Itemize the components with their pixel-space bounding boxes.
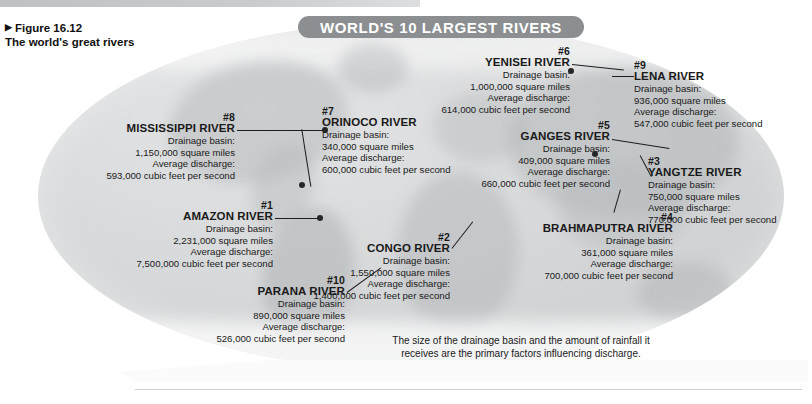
callout-mississippi-river: #8 MISSISSIPPI RIVER Drainage basin: 1,1… [70,112,235,181]
average-discharge-label: Average discharge: [634,106,804,117]
drainage-basin-label: Drainage basin: [634,83,804,94]
callout-yenisei-river: #6 YENISEI RIVER Drainage basin: 1,000,0… [420,46,570,115]
drainage-basin-value: 409,000 square miles [460,155,610,166]
drainage-basin-value: 936,000 square miles [634,95,804,106]
leader-line-mississippi [237,130,325,131]
map-marker-yenisei [568,68,574,74]
average-discharge-value: 660,000 cubic feet per second [460,178,610,189]
average-discharge-label: Average discharge: [108,246,273,257]
callout-amazon-river: #1 AMAZON RIVER Drainage basin: 2,231,00… [108,200,273,269]
average-discharge-label: Average discharge: [460,166,610,177]
river-name: GANGES RIVER [460,131,610,142]
average-discharge-value: 547,000 cubic feet per second [634,118,804,129]
average-discharge-value: 700,000 cubic feet per second [508,270,673,281]
drainage-basin-label: Drainage basin: [70,135,235,146]
river-name: LENA RIVER [634,71,804,82]
drainage-basin-value: 1,150,000 square miles [70,147,235,158]
map-marker-amazon [317,215,323,221]
callout-ganges-river: #5 GANGES RIVER Drainage basin: 409,000 … [460,120,610,189]
average-discharge-value: 1,400,000 cubic feet per second [300,290,450,301]
greenland-landmass [338,44,408,92]
drainage-basin-label: Drainage basin: [420,69,570,80]
drainage-basin-value: 1,000,000 square miles [420,81,570,92]
average-discharge-label: Average discharge: [420,92,570,103]
drainage-basin-value: 890,000 square miles [190,310,345,321]
average-discharge-label: Average discharge: [70,158,235,169]
map-title-banner: WORLD'S 10 LARGEST RIVERS [298,16,584,38]
river-name: YENISEI RIVER [420,57,570,68]
callout-lena-river: #9 LENA RIVER Drainage basin: 936,000 sq… [634,60,804,129]
drainage-basin-value: 750,000 square miles [648,191,812,202]
drainage-basin-label: Drainage basin: [108,223,273,234]
callout-brahmaputra-river: #4 BRAHMAPUTRA RIVER Drainage basin: 361… [508,212,673,281]
map-marker-ganges [592,151,598,157]
average-discharge-label: Average discharge: [508,258,673,269]
river-name: MISSISSIPPI RIVER [70,123,235,134]
average-discharge-value: 593,000 cubic feet per second [70,170,235,181]
average-discharge-label: Average discharge: [300,278,450,289]
drainage-basin-value: 1,550,000 square miles [300,267,450,278]
river-name: BRAHMAPUTRA RIVER [508,223,673,234]
average-discharge-value: 614,000 cubic feet per second [420,104,570,115]
map-explanatory-note: The size of the drainage basin and the a… [390,334,652,360]
drainage-basin-label: Drainage basin: [300,255,450,266]
map-base-line [135,389,802,390]
leader-line-lena [612,76,634,77]
river-name: AMAZON RIVER [108,211,273,222]
average-discharge-value: 526,000 cubic feet per second [190,333,345,344]
drainage-basin-value: 361,000 square miles [508,247,673,258]
drainage-basin-label: Drainage basin: [460,143,610,154]
average-discharge-label: Average discharge: [190,321,345,332]
river-name: CONGO RIVER [300,243,450,254]
leader-line-amazon [275,218,320,219]
top-divider-bar [0,0,420,7]
average-discharge-value: 7,500,000 cubic feet per second [108,258,273,269]
drainage-basin-label: Drainage basin: [648,179,812,190]
drainage-basin-value: 2,231,000 square miles [108,235,273,246]
map-marker-orinoco [299,182,305,188]
map-title-text: WORLD'S 10 LARGEST RIVERS [320,19,562,36]
river-name: YANGTZE RIVER [648,167,812,178]
callout-congo-river: #2 CONGO RIVER Drainage basin: 1,550,000… [300,232,450,301]
drainage-basin-label: Drainage basin: [508,235,673,246]
